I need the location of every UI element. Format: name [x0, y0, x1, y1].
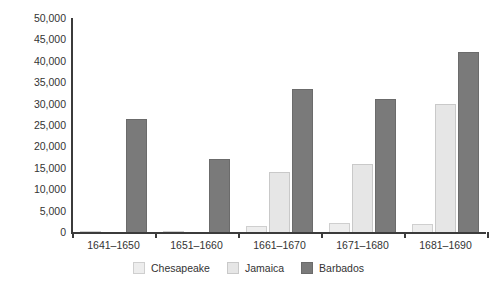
legend-item-chesapeake[interactable]: Chesapeake — [133, 262, 210, 274]
legend-item-jamaica[interactable]: Jamaica — [227, 262, 284, 274]
bar-group — [238, 18, 321, 232]
x-axis-tick — [321, 232, 323, 238]
x-axis-category-label: 1661–1670 — [238, 239, 321, 257]
legend-label: Chesapeake — [151, 262, 210, 274]
y-axis-tick-label: 45,000 — [34, 33, 66, 45]
bar-group — [72, 18, 155, 232]
legend-item-barbados[interactable]: Barbados — [301, 262, 364, 274]
y-axis-tick-label: 20,000 — [34, 140, 66, 152]
chart-legend: ChesapeakeJamaicaBarbados — [0, 262, 497, 274]
y-axis-tick-label: 30,000 — [34, 98, 66, 110]
bar-group — [404, 18, 487, 232]
y-axis-tick-label: 5,000 — [40, 205, 66, 217]
bar-group — [321, 18, 404, 232]
y-axis-tick-label: 50,000 — [34, 12, 66, 24]
bar-chesapeake[interactable] — [329, 223, 350, 232]
y-axis-tick-label: 35,000 — [34, 76, 66, 88]
bar-jamaica[interactable] — [435, 104, 456, 232]
legend-label: Jamaica — [245, 262, 284, 274]
bar-group — [155, 18, 238, 232]
bar-groups — [72, 18, 487, 232]
x-axis-tick — [404, 232, 406, 238]
bar-chart: 05,00010,00015,00020,00025,00030,00035,0… — [0, 0, 497, 292]
legend-swatch-chesapeake — [133, 262, 145, 274]
x-axis-tick — [487, 232, 489, 238]
y-axis-tick-label: 15,000 — [34, 162, 66, 174]
x-axis-category-label: 1651–1660 — [155, 239, 238, 257]
y-axis-tick-label: 40,000 — [34, 55, 66, 67]
y-axis-tick-label: 0 — [60, 226, 66, 238]
bar-jamaica[interactable] — [352, 164, 373, 232]
x-axis-ticks — [72, 232, 487, 238]
x-axis-category-label: 1681–1690 — [404, 239, 487, 257]
y-axis-tick-label: 10,000 — [34, 183, 66, 195]
bar-barbados[interactable] — [292, 89, 313, 232]
bar-barbados[interactable] — [375, 99, 396, 232]
bar-barbados[interactable] — [458, 52, 479, 232]
x-axis-tick — [72, 232, 74, 238]
x-axis-category-label: 1671–1680 — [321, 239, 404, 257]
bar-barbados[interactable] — [126, 119, 147, 232]
y-axis-labels: 05,00010,00015,00020,00025,00030,00035,0… — [0, 18, 66, 232]
legend-label: Barbados — [319, 262, 364, 274]
bar-chesapeake[interactable] — [412, 224, 433, 232]
x-axis-labels: 1641–16501651–16601661–16701671–16801681… — [72, 239, 487, 257]
x-axis-tick — [238, 232, 240, 238]
bar-jamaica[interactable] — [269, 172, 290, 232]
x-axis-category-label: 1641–1650 — [72, 239, 155, 257]
bar-barbados[interactable] — [209, 159, 230, 232]
y-axis-tick-label: 25,000 — [34, 119, 66, 131]
legend-swatch-jamaica — [227, 262, 239, 274]
x-axis-tick — [155, 232, 157, 238]
legend-swatch-barbados — [301, 262, 313, 274]
